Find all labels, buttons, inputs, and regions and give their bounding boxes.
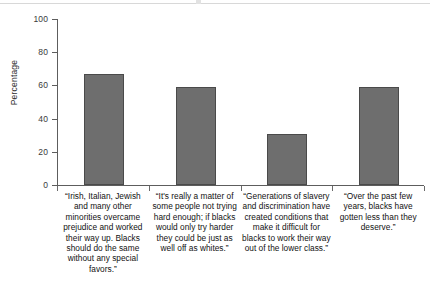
bar (267, 134, 307, 185)
y-axis-tick-label: 100 (18, 15, 48, 24)
x-axis-category-label: “Over the past few years, blacks have go… (332, 191, 424, 233)
y-axis-tick-label: 60 (18, 81, 48, 90)
y-axis-tick-label: 40 (18, 115, 48, 124)
x-axis-category-label: “It's really a matter of some people not… (149, 191, 241, 253)
x-axis-separator-tick (424, 186, 425, 191)
plot-area (58, 19, 424, 185)
bar-chart-figure: Percentage 020406080100 “Irish, Italian,… (0, 0, 430, 301)
x-axis-category-labels: “Irish, Italian, Jewish and many other m… (57, 191, 424, 301)
bar (84, 74, 124, 185)
y-axis-tick-label: 80 (18, 48, 48, 57)
y-axis-tick-mark (52, 52, 57, 53)
scan-artifact-line (0, 3, 430, 4)
y-axis-tick-mark (52, 19, 57, 20)
y-axis-tick-label: 0 (18, 181, 48, 190)
y-axis-tick-mark (52, 152, 57, 153)
y-axis-tick-mark (52, 85, 57, 86)
bar (359, 87, 399, 185)
y-axis-tick-label: 20 (18, 148, 48, 157)
x-axis-category-label: “Generations of slavery and discriminati… (241, 191, 333, 253)
bar (176, 87, 216, 185)
y-axis-tick-mark (52, 119, 57, 120)
x-axis-category-label: “Irish, Italian, Jewish and many other m… (57, 191, 149, 274)
scan-artifact-blip (196, 0, 201, 4)
